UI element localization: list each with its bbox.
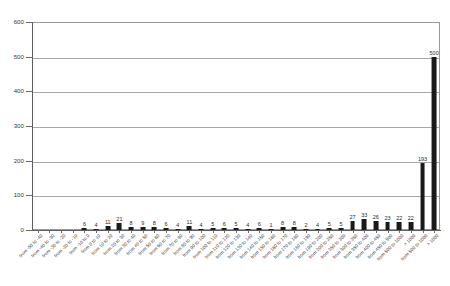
bar-value-label: 500: [430, 50, 439, 56]
y-axis-tick-label: 0: [0, 227, 24, 233]
bar-slot: 6: [219, 22, 231, 230]
bar-slot: 8: [149, 22, 161, 230]
x-axis-labels: from -50 to -40from -40 to -30from -30 t…: [32, 233, 440, 286]
bar-slot: 193: [417, 22, 429, 230]
bar-value-label: 8: [281, 220, 284, 226]
bar-slot: 1: [265, 22, 277, 230]
y-axis-tick-label: 400: [0, 88, 24, 94]
y-axis-tick-label: 100: [0, 192, 24, 198]
bar-slot: 4: [242, 22, 254, 230]
bar-value-label: 4: [246, 222, 249, 228]
bar-value-label: 21: [116, 216, 122, 222]
bar-value-label: 8: [293, 220, 296, 226]
bar-value-label: 26: [373, 214, 379, 220]
bar-slot: 8: [125, 22, 137, 230]
bars-layer: 6411218986411456546188245527332623222219…: [32, 22, 440, 230]
bar-value-label: 1: [269, 222, 272, 228]
bar-slot: 5: [230, 22, 242, 230]
bar-value-label: 6: [223, 221, 226, 227]
bar-slot: [32, 22, 44, 230]
bar-value-label: 27: [350, 214, 356, 220]
bar-value-label: 193: [418, 156, 427, 162]
bar-value-label: 22: [408, 215, 414, 221]
bar[interactable]: [397, 222, 402, 230]
bar-value-label: 4: [176, 222, 179, 228]
bar-slot: 27: [347, 22, 359, 230]
bar-value-label: 9: [141, 220, 144, 226]
bar-slot: 6: [79, 22, 91, 230]
y-axis-tick-label: 600: [0, 19, 24, 25]
bar[interactable]: [420, 163, 425, 230]
bar-value-label: 11: [187, 219, 193, 225]
bar-value-label: 6: [258, 221, 261, 227]
bar-slot: 11: [102, 22, 114, 230]
bar-slot: [55, 22, 67, 230]
bar[interactable]: [385, 222, 390, 230]
bar-value-label: 2: [304, 222, 307, 228]
bar[interactable]: [362, 219, 367, 230]
bar-value-label: 4: [199, 222, 202, 228]
y-axis-tick-label: 200: [0, 158, 24, 164]
bar-value-label: 33: [361, 212, 367, 218]
bar-slot: [44, 22, 56, 230]
bar[interactable]: [350, 221, 355, 230]
bar-value-label: 11: [105, 219, 111, 225]
bar-value-label: 5: [328, 221, 331, 227]
bar-slot: 5: [323, 22, 335, 230]
bar-value-label: 5: [339, 221, 342, 227]
bar-value-label: 23: [384, 215, 390, 221]
bar-value-label: 22: [396, 215, 402, 221]
bar[interactable]: [373, 221, 378, 230]
bar-slot: 21: [114, 22, 126, 230]
bar-value-label: 6: [165, 221, 168, 227]
bar[interactable]: [117, 223, 122, 230]
bar-slot: 8: [277, 22, 289, 230]
bar-value-label: 4: [316, 222, 319, 228]
bar-slot: 9: [137, 22, 149, 230]
bar-slot: [67, 22, 79, 230]
bar-slot: 4: [312, 22, 324, 230]
bar-slot: 5: [207, 22, 219, 230]
bar-value-label: 8: [130, 220, 133, 226]
bar-slot: 4: [172, 22, 184, 230]
y-axis-tick-label: 500: [0, 54, 24, 60]
histogram-chart: 0100200300400500600 64112189864114565461…: [0, 0, 450, 286]
bar-value-label: 5: [211, 221, 214, 227]
bar-slot: 6: [160, 22, 172, 230]
bar-slot: 500: [428, 22, 440, 230]
bar-slot: 33: [358, 22, 370, 230]
bar[interactable]: [408, 222, 413, 230]
bar-slot: 2: [300, 22, 312, 230]
bar-value-label: 6: [83, 221, 86, 227]
bar-value-label: 8: [153, 220, 156, 226]
y-axis-tick-label: 300: [0, 123, 24, 129]
bar-slot: 22: [405, 22, 417, 230]
bar-slot: 4: [195, 22, 207, 230]
bar[interactable]: [432, 57, 437, 230]
bar-slot: 26: [370, 22, 382, 230]
bar-slot: 8: [288, 22, 300, 230]
bar-value-label: 4: [95, 222, 98, 228]
bar-slot: 6: [253, 22, 265, 230]
bar-slot: 22: [393, 22, 405, 230]
bar-slot: 5: [335, 22, 347, 230]
bar-value-label: 5: [234, 221, 237, 227]
bar-slot: 11: [184, 22, 196, 230]
bar-slot: 23: [382, 22, 394, 230]
bar-slot: 4: [90, 22, 102, 230]
